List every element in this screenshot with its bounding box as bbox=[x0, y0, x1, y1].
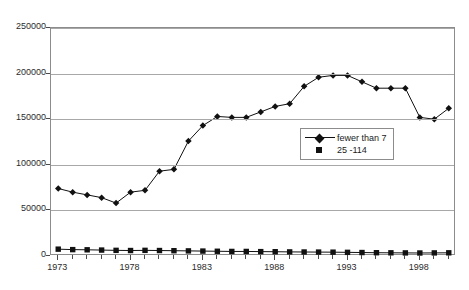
x-axis-tick-mark bbox=[347, 255, 348, 260]
data-point-square bbox=[84, 247, 89, 252]
x-axis-tick-mark bbox=[448, 255, 449, 259]
legend-marker-diamond-icon bbox=[305, 132, 335, 144]
data-point-diamond bbox=[315, 74, 322, 81]
x-axis-tick-mark bbox=[404, 255, 405, 259]
x-axis-tick-mark bbox=[245, 255, 246, 259]
gridline bbox=[51, 74, 454, 75]
x-axis-tick-mark bbox=[303, 255, 304, 259]
legend-item-series-1[interactable]: 25 -114 bbox=[305, 144, 387, 156]
series-layer bbox=[51, 28, 456, 256]
x-axis-tick-mark bbox=[231, 255, 232, 259]
y-axis-tick-label: 50000 bbox=[2, 204, 46, 213]
x-axis-tick-mark bbox=[375, 255, 376, 259]
data-point-square bbox=[142, 248, 147, 253]
data-point-diamond bbox=[84, 192, 91, 199]
data-point-diamond bbox=[388, 85, 395, 92]
x-axis-tick-mark bbox=[332, 255, 333, 259]
x-axis-tick-mark bbox=[72, 255, 73, 259]
legend-item-series-0[interactable]: fewer than 7 bbox=[305, 132, 387, 144]
data-point-square bbox=[186, 248, 191, 253]
x-axis-tick-mark bbox=[86, 255, 87, 259]
x-axis-tick-mark bbox=[289, 255, 290, 259]
y-axis-tick-mark bbox=[46, 209, 50, 210]
chart-container: 250000200000150000100000500000 fewer tha… bbox=[0, 0, 469, 290]
data-point-diamond bbox=[171, 166, 178, 173]
data-point-square bbox=[70, 247, 75, 252]
x-axis-tick-mark bbox=[158, 255, 159, 259]
x-axis-tick-mark bbox=[216, 255, 217, 259]
x-axis-tick-mark bbox=[433, 255, 434, 259]
y-axis-tick-mark bbox=[46, 27, 50, 28]
data-point-square bbox=[273, 249, 278, 254]
y-axis-tick-label: 200000 bbox=[2, 68, 46, 77]
y-axis-tick-mark bbox=[46, 118, 50, 119]
x-axis-tick-mark bbox=[260, 255, 261, 259]
data-point-diamond bbox=[402, 85, 409, 92]
x-axis-tick-mark bbox=[419, 255, 420, 260]
data-point-square bbox=[215, 249, 220, 254]
data-point-diamond bbox=[69, 189, 76, 196]
x-axis-tick-mark bbox=[361, 255, 362, 259]
y-axis-tick-label: 100000 bbox=[2, 159, 46, 168]
data-point-square bbox=[258, 249, 263, 254]
x-axis-tick-label: 1993 bbox=[337, 263, 357, 272]
x-axis-tick-label: 1983 bbox=[192, 263, 212, 272]
plot-area bbox=[50, 27, 455, 255]
data-point-square bbox=[301, 249, 306, 254]
gridline bbox=[51, 210, 454, 211]
data-point-square bbox=[157, 248, 162, 253]
y-axis-tick-label: 150000 bbox=[2, 113, 46, 122]
x-axis-tick-mark bbox=[173, 255, 174, 259]
data-point-diamond bbox=[373, 85, 380, 92]
y-axis: 250000200000150000100000500000 bbox=[0, 0, 46, 290]
gridline bbox=[51, 119, 454, 120]
data-point-square bbox=[128, 248, 133, 253]
data-point-square bbox=[113, 248, 118, 253]
data-point-square bbox=[56, 246, 61, 251]
gridline bbox=[51, 165, 454, 166]
y-axis-tick-mark bbox=[46, 73, 50, 74]
data-point-diamond bbox=[257, 109, 264, 116]
legend-marker-square-icon bbox=[305, 144, 335, 156]
x-axis-tick-mark bbox=[390, 255, 391, 259]
x-axis-tick-mark bbox=[318, 255, 319, 259]
x-axis-tick-mark bbox=[130, 255, 131, 260]
x-axis-tick-label: 1978 bbox=[120, 263, 140, 272]
data-point-square bbox=[99, 247, 104, 252]
x-axis-tick-mark bbox=[57, 255, 58, 260]
chart-legend: fewer than 7 25 -114 bbox=[300, 128, 394, 160]
x-axis-tick-mark bbox=[187, 255, 188, 259]
data-point-square bbox=[171, 248, 176, 253]
data-point-square bbox=[200, 248, 205, 253]
data-point-square bbox=[316, 249, 321, 254]
data-point-diamond bbox=[359, 79, 366, 86]
x-axis-tick-mark bbox=[274, 255, 275, 260]
x-axis-tick-label: 1998 bbox=[409, 263, 429, 272]
gridline bbox=[51, 28, 454, 29]
y-axis-tick-label: 250000 bbox=[2, 22, 46, 31]
legend-label-series-1: 25 -114 bbox=[335, 144, 367, 156]
data-point-diamond bbox=[98, 194, 105, 201]
x-axis-tick-mark bbox=[101, 255, 102, 259]
x-axis-tick-mark bbox=[202, 255, 203, 260]
data-point-diamond bbox=[55, 185, 62, 192]
data-point-square bbox=[229, 249, 234, 254]
x-axis-tick-mark bbox=[115, 255, 116, 259]
data-point-square bbox=[287, 249, 292, 254]
y-axis-tick-mark bbox=[46, 255, 50, 256]
y-axis-tick-mark bbox=[46, 164, 50, 165]
x-axis-tick-label: 1988 bbox=[264, 263, 284, 272]
data-point-square bbox=[244, 249, 249, 254]
x-axis-tick-label: 1973 bbox=[47, 263, 67, 272]
y-axis-tick-label: 0 bbox=[2, 250, 46, 259]
data-point-diamond bbox=[272, 103, 279, 110]
legend-label-series-0: fewer than 7 bbox=[335, 132, 387, 144]
x-axis-tick-mark bbox=[144, 255, 145, 259]
